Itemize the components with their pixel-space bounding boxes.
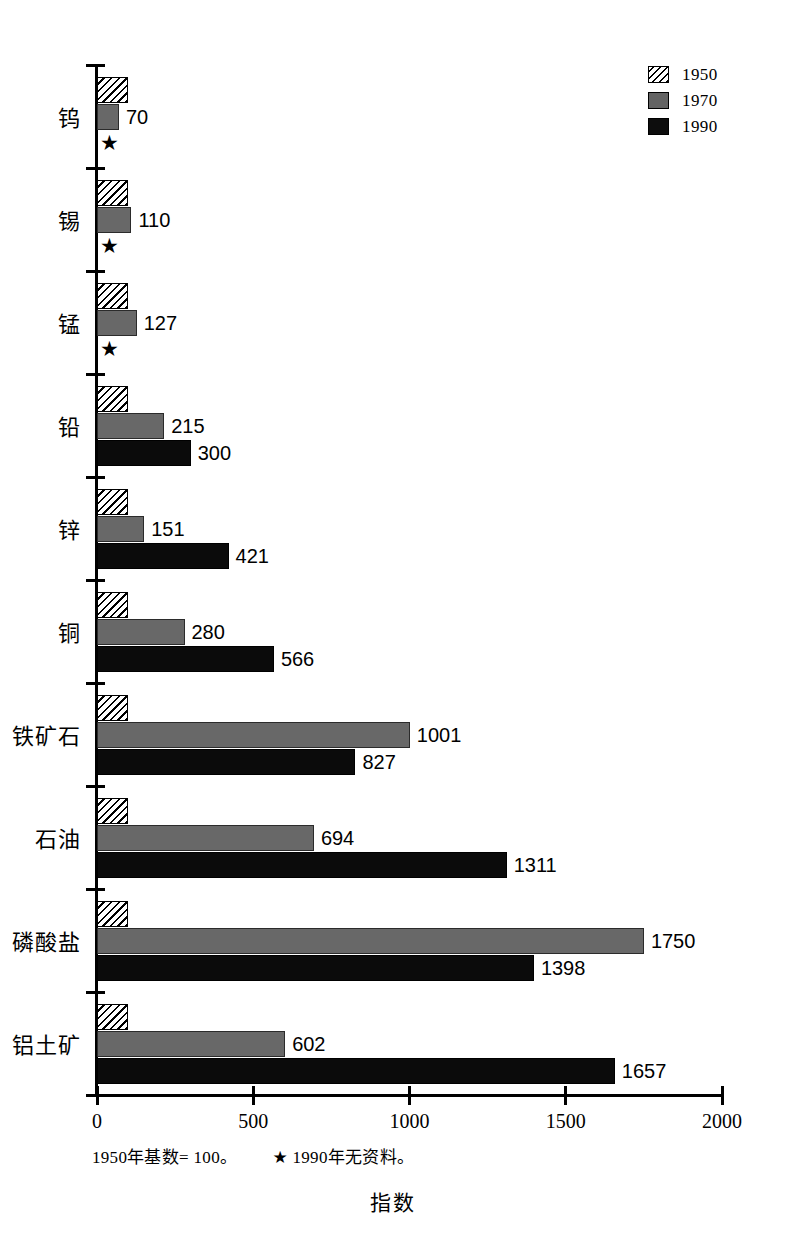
chart-footnote: 1950年基数= 100。 ★ 1990年无资料。 — [92, 1143, 414, 1168]
bar-row[interactable]: ★ — [97, 131, 722, 157]
y-axis-tick — [86, 785, 105, 788]
bar-row[interactable]: ★ — [97, 234, 722, 260]
bar-1950[interactable] — [97, 1004, 128, 1030]
bar-1950[interactable] — [97, 798, 128, 824]
bar-row[interactable] — [97, 695, 722, 721]
bar-1990[interactable] — [97, 852, 507, 878]
bar-group: 280566 — [97, 592, 722, 673]
bar-row[interactable] — [97, 1004, 722, 1030]
y-axis-tick — [86, 476, 105, 479]
bar-value-label: 127 — [144, 313, 177, 333]
bar-1970[interactable] — [97, 825, 314, 851]
bar-1950[interactable] — [97, 489, 128, 515]
bar-value-label: 1657 — [622, 1061, 667, 1081]
bar-row[interactable]: 280 — [97, 619, 722, 645]
category-label: 铅 — [58, 409, 81, 441]
bar-1950[interactable] — [97, 695, 128, 721]
bar-row[interactable]: 1750 — [97, 928, 722, 954]
bar-chart: 1950 1970 1990 0500100015002000 70★110★1… — [0, 0, 786, 1245]
bar-row[interactable] — [97, 489, 722, 515]
bar-row[interactable] — [97, 592, 722, 618]
bar-row[interactable]: 1311 — [97, 852, 722, 878]
bar-1970[interactable] — [97, 1031, 285, 1057]
bar-value-label: 70 — [126, 107, 148, 127]
bar-row[interactable]: 151 — [97, 516, 722, 542]
category-label: 铜 — [58, 615, 81, 647]
bar-1970[interactable] — [97, 722, 410, 748]
bar-1970[interactable] — [97, 516, 144, 542]
bar-1990[interactable] — [97, 749, 355, 775]
x-axis-title: 指数 — [0, 1186, 786, 1216]
bar-row[interactable] — [97, 901, 722, 927]
bar-1990[interactable] — [97, 1058, 615, 1084]
bar-row[interactable]: 300 — [97, 440, 722, 466]
bar-row[interactable] — [97, 386, 722, 412]
y-axis-tick — [86, 167, 105, 170]
bar-row[interactable]: 827 — [97, 749, 722, 775]
bar-row[interactable]: 694 — [97, 825, 722, 851]
x-axis-tick — [721, 1086, 724, 1105]
category-label: 石油 — [35, 821, 81, 853]
x-axis-tick-label: 2000 — [702, 1110, 742, 1133]
category-label: 铁矿石 — [12, 718, 81, 750]
category-label: 锰 — [58, 306, 81, 338]
bar-1970[interactable] — [97, 104, 119, 130]
bar-1970[interactable] — [97, 207, 131, 233]
bar-row[interactable]: 566 — [97, 646, 722, 672]
bar-1990[interactable] — [97, 955, 534, 981]
bar-1950[interactable] — [97, 386, 128, 412]
bar-value-label: 110 — [138, 210, 170, 230]
bar-row[interactable] — [97, 77, 722, 103]
bar-row[interactable]: 127 — [97, 310, 722, 336]
bar-value-label: 300 — [198, 443, 231, 463]
bar-value-label: 1750 — [651, 931, 696, 951]
x-axis-tick-label: 1500 — [546, 1110, 586, 1133]
bar-row[interactable]: 1657 — [97, 1058, 722, 1084]
bar-row[interactable]: ★ — [97, 337, 722, 363]
bar-group: 110★ — [97, 180, 722, 261]
bar-row[interactable] — [97, 283, 722, 309]
bar-1950[interactable] — [97, 283, 128, 309]
bar-value-label: 421 — [236, 546, 269, 566]
bar-row[interactable]: 110 — [97, 207, 722, 233]
bar-group: 70★ — [97, 77, 722, 158]
bar-1950[interactable] — [97, 77, 128, 103]
y-axis-tick — [86, 682, 105, 685]
bar-group: 151421 — [97, 489, 722, 570]
bar-1990[interactable] — [97, 646, 274, 672]
bar-row[interactable]: 1001 — [97, 722, 722, 748]
bar-group: 6021657 — [97, 1004, 722, 1085]
bar-row[interactable]: 1398 — [97, 955, 722, 981]
bar-value-label: 1001 — [417, 725, 462, 745]
plot-area: 0500100015002000 70★110★127★215300151421… — [97, 64, 722, 1094]
footnote-star-icon: ★ — [272, 1147, 288, 1167]
bar-group: 17501398 — [97, 901, 722, 982]
no-data-star-icon: ★ — [100, 133, 119, 154]
bar-1950[interactable] — [97, 180, 128, 206]
bar-group: 6941311 — [97, 798, 722, 879]
bar-group: 127★ — [97, 283, 722, 364]
bar-row[interactable]: 70 — [97, 104, 722, 130]
no-data-star-icon: ★ — [100, 339, 119, 360]
y-axis-tick — [86, 64, 105, 67]
bar-row[interactable]: 421 — [97, 543, 722, 569]
bar-row[interactable]: 215 — [97, 413, 722, 439]
category-label: 锌 — [58, 512, 81, 544]
bar-value-label: 1398 — [541, 958, 586, 978]
bar-1970[interactable] — [97, 619, 185, 645]
bar-1990[interactable] — [97, 543, 229, 569]
bar-row[interactable] — [97, 798, 722, 824]
bar-1950[interactable] — [97, 592, 128, 618]
x-axis-tick-label: 500 — [238, 1110, 268, 1133]
bar-row[interactable]: 602 — [97, 1031, 722, 1057]
y-axis-tick — [86, 579, 105, 582]
bar-1950[interactable] — [97, 901, 128, 927]
bar-1970[interactable] — [97, 310, 137, 336]
x-axis-tick — [252, 1086, 255, 1105]
bar-row[interactable] — [97, 180, 722, 206]
x-axis-tick-label: 1000 — [390, 1110, 430, 1133]
bar-value-label: 1311 — [514, 855, 557, 875]
bar-1990[interactable] — [97, 440, 191, 466]
bar-1970[interactable] — [97, 413, 164, 439]
bar-1970[interactable] — [97, 928, 644, 954]
